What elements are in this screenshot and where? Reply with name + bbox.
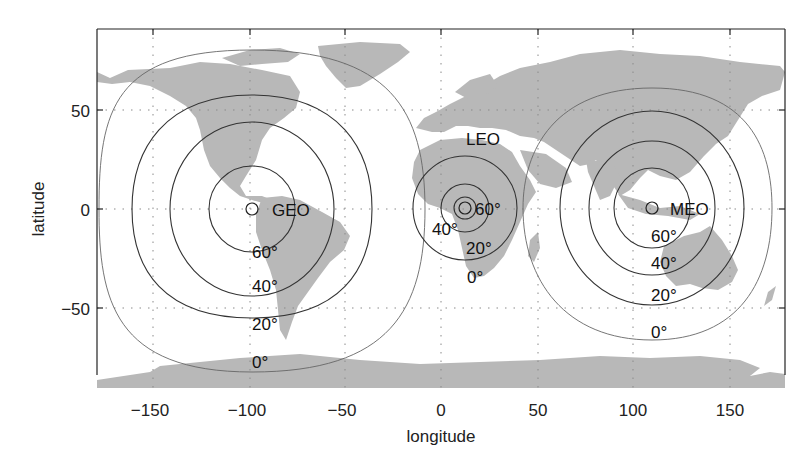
leo-elev-20: 20° bbox=[466, 239, 492, 258]
meo-elev-60: 60° bbox=[651, 227, 677, 246]
y-tick-label: −50 bbox=[61, 300, 90, 319]
x-tick-label: 100 bbox=[619, 401, 647, 420]
x-tick-label: 50 bbox=[529, 401, 548, 420]
leo-elev-0: 0° bbox=[467, 268, 483, 287]
land-new-zealand bbox=[764, 286, 776, 306]
geo-elev-0: 0° bbox=[252, 353, 268, 372]
x-axis-label: longitude bbox=[406, 427, 475, 446]
geo-marker bbox=[246, 203, 258, 215]
geo-elev-60: 60° bbox=[252, 243, 278, 262]
leo-elev-40: 40° bbox=[432, 220, 458, 239]
geo-elev-40: 40° bbox=[252, 277, 278, 296]
x-tick-label: −100 bbox=[228, 401, 266, 420]
meo-elev-20: 20° bbox=[651, 286, 677, 305]
geo-elev-20: 20° bbox=[252, 315, 278, 334]
x-tick-label: −50 bbox=[328, 401, 357, 420]
chart-figure: GEO LEO MEO 60° 40° 20° 0° 60° 40° 20° 0… bbox=[0, 0, 807, 463]
leo-elev-60: 60° bbox=[475, 200, 501, 219]
y-tick-label: 50 bbox=[71, 102, 90, 121]
x-tick-label: 0 bbox=[436, 401, 445, 420]
meo-elev-40: 40° bbox=[651, 254, 677, 273]
land-north-america bbox=[97, 62, 300, 206]
x-tick-label: −150 bbox=[131, 401, 169, 420]
leo-label: LEO bbox=[466, 130, 500, 149]
land-greenland bbox=[318, 42, 410, 88]
land-antarctica bbox=[97, 354, 785, 388]
geo-label: GEO bbox=[272, 201, 310, 220]
meo-elev-0: 0° bbox=[651, 323, 667, 342]
y-axis-label: latitude bbox=[29, 182, 48, 237]
meo-label: MEO bbox=[670, 200, 709, 219]
x-tick-labels: −150 −100 −50 0 50 100 150 bbox=[131, 401, 744, 420]
y-tick-label: 0 bbox=[81, 201, 90, 220]
y-tick-labels: 50 0 −50 bbox=[61, 102, 90, 319]
x-tick-label: 150 bbox=[716, 401, 744, 420]
